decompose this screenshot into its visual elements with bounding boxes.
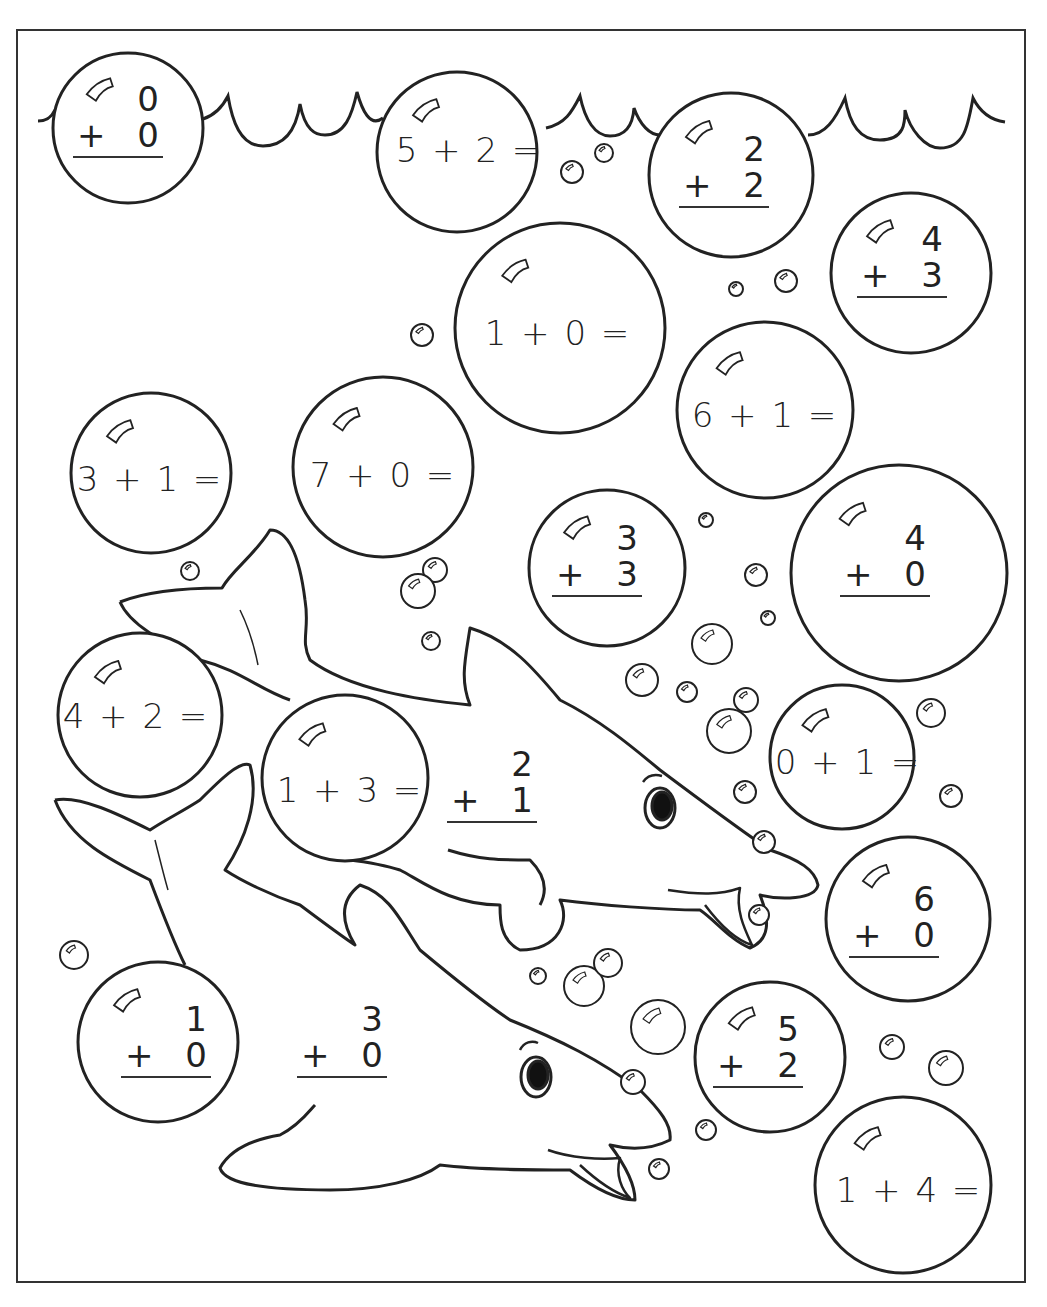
addend-bottom: 1: [511, 783, 533, 817]
addend-bottom-row: +0: [297, 1038, 387, 1078]
small-bubble: [530, 968, 546, 984]
addend-bottom-row: +3: [857, 258, 947, 298]
horizontal-addition-problem: 1 + 3 =: [277, 773, 424, 807]
addend-top: 3: [552, 521, 642, 557]
addend-bottom: 2: [743, 168, 765, 202]
plus-sign: +: [861, 258, 890, 292]
small-bubble: [775, 270, 797, 292]
small-bubble: [696, 1120, 716, 1140]
small-bubble: [60, 941, 88, 969]
addend-bottom-row: +2: [679, 168, 769, 208]
vertical-addition-problem: 4+0: [840, 521, 930, 597]
horizontal-addition-problem: 7 + 0 =: [310, 458, 457, 492]
addend-bottom: 3: [616, 557, 638, 591]
addend-bottom-row: +1: [447, 783, 537, 823]
small-bubble: [761, 611, 775, 625]
horizontal-addition-problem: 1 + 4 =: [836, 1173, 983, 1207]
vertical-addition-problem: 4+3: [857, 222, 947, 298]
small-bubble: [699, 513, 713, 527]
horizontal-addition-problem: 4 + 2 =: [63, 699, 210, 733]
small-bubble: [734, 781, 756, 803]
addend-top: 0: [73, 82, 163, 118]
addend-bottom-row: +0: [840, 557, 930, 597]
addend-bottom: 2: [777, 1048, 799, 1082]
small-bubble: [411, 324, 433, 346]
addend-bottom: 0: [913, 918, 935, 952]
small-bubble: [422, 632, 440, 650]
addend-top: 2: [679, 132, 769, 168]
addend-bottom-row: +2: [713, 1048, 803, 1088]
vertical-addition-problem: 2+2: [679, 132, 769, 208]
plus-sign: +: [301, 1038, 330, 1072]
horizontal-addition-problem: 0 + 1 =: [775, 745, 922, 779]
small-bubble: [729, 282, 743, 296]
addend-top: 3: [297, 1002, 387, 1038]
horizontal-addition-problem: 5 + 2 =: [396, 133, 543, 167]
horizontal-addition-problem: 6 + 1 =: [692, 398, 839, 432]
small-bubble: [401, 574, 435, 608]
addend-bottom: 0: [904, 557, 926, 591]
vertical-addition-problem: 3+3: [552, 521, 642, 597]
small-bubble: [753, 831, 775, 853]
small-bubble: [929, 1051, 963, 1085]
vertical-addition-problem: 2+1: [447, 747, 537, 823]
addend-top: 2: [447, 747, 537, 783]
small-bubble: [631, 1000, 685, 1054]
addend-top: 4: [840, 521, 930, 557]
small-bubble: [707, 709, 751, 753]
small-bubble: [749, 905, 769, 925]
addend-top: 1: [121, 1002, 211, 1038]
small-bubble: [917, 699, 945, 727]
plus-sign: +: [451, 783, 480, 817]
small-bubble: [734, 688, 758, 712]
small-bubble: [181, 562, 199, 580]
horizontal-addition-problem: 3 + 1 =: [77, 462, 224, 496]
plus-sign: +: [125, 1038, 154, 1072]
addend-bottom: 3: [921, 258, 943, 292]
plus-sign: +: [853, 918, 882, 952]
small-bubble: [649, 1159, 669, 1179]
small-bubble: [880, 1035, 904, 1059]
vertical-addition-problem: 6+0: [849, 882, 939, 958]
small-bubble: [594, 949, 622, 977]
horizontal-addition-problem: 1 + 0 =: [485, 316, 632, 350]
plus-sign: +: [844, 557, 873, 591]
small-bubble: [692, 624, 732, 664]
vertical-addition-problem: 1+0: [121, 1002, 211, 1078]
plus-sign: +: [717, 1048, 746, 1082]
small-bubble: [621, 1070, 645, 1094]
vertical-addition-problem: 3+0: [297, 1002, 387, 1078]
plus-sign: +: [556, 557, 585, 591]
vertical-addition-problem: 5+2: [713, 1012, 803, 1088]
vertical-addition-problem: 0+0: [73, 82, 163, 158]
plus-sign: +: [683, 168, 712, 202]
addend-top: 4: [857, 222, 947, 258]
addend-top: 6: [849, 882, 939, 918]
addend-bottom: 0: [185, 1038, 207, 1072]
small-bubble: [677, 682, 697, 702]
small-bubble: [626, 664, 658, 696]
small-bubble: [745, 564, 767, 586]
worksheet-illustration: [0, 0, 1047, 1307]
addend-bottom: 0: [137, 118, 159, 152]
small-bubble: [561, 161, 583, 183]
addend-bottom-row: +0: [849, 918, 939, 958]
plus-sign: +: [77, 118, 106, 152]
addend-bottom-row: +3: [552, 557, 642, 597]
small-bubble: [595, 144, 613, 162]
addend-bottom: 0: [361, 1038, 383, 1072]
addend-bottom-row: +0: [121, 1038, 211, 1078]
addend-bottom-row: +0: [73, 118, 163, 158]
small-bubble: [940, 785, 962, 807]
addend-top: 5: [713, 1012, 803, 1048]
